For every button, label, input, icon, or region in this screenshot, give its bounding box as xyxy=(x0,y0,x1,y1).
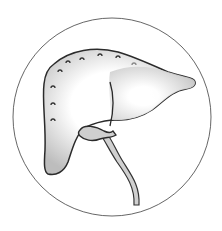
liver-illustration: liver with gallbladder and bile duct xyxy=(0,0,222,231)
liver-right-lobe xyxy=(109,67,195,120)
liver-icon xyxy=(0,0,222,231)
bile-duct xyxy=(101,132,139,205)
